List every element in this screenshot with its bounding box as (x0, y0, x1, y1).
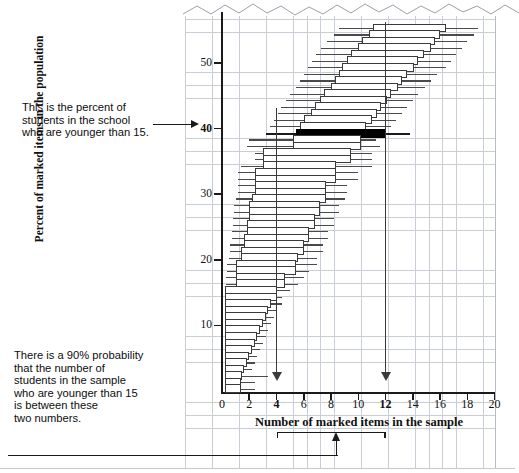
whisker-high (351, 159, 371, 160)
whisker-high (361, 139, 376, 140)
whisker-high (435, 41, 468, 42)
whisker-low (234, 212, 249, 213)
whisker-high (249, 356, 257, 357)
whisker-high (402, 80, 431, 81)
whisker-high (242, 376, 268, 377)
whisker-low (233, 218, 249, 219)
x-tick-label-2: 2 (246, 397, 252, 412)
x-tick-label-14: 14 (407, 397, 419, 412)
y-tick-50 (214, 62, 221, 64)
whisker-high (440, 34, 474, 35)
whisker-low (266, 133, 296, 134)
whisker-high (418, 61, 451, 62)
torn-paper-edge-icon (183, 0, 519, 22)
whisker-high (336, 172, 358, 173)
y-tick-label-20: 20 (196, 253, 212, 265)
reference-line-x12 (385, 22, 386, 372)
box (225, 384, 241, 393)
reference-arrow-x4-icon (272, 372, 282, 381)
x-tick-label-12: 12 (380, 397, 392, 412)
reference-line-x4 (276, 108, 277, 372)
whisker-high (304, 244, 323, 245)
whisker-high (326, 185, 348, 186)
whisker-low (227, 271, 235, 272)
annotation-top-leader-line (153, 124, 193, 125)
x-tick-label-10: 10 (352, 397, 364, 412)
whisker-high (366, 126, 391, 127)
x-axis-title: Number of marked items in the sample (228, 415, 490, 430)
whisker-high (296, 271, 310, 272)
x-tick-label-8: 8 (328, 397, 334, 412)
whisker-low (286, 100, 320, 101)
whisker-high (241, 382, 255, 383)
x-tick-label-20: 20 (489, 397, 501, 412)
whisker-high (252, 349, 260, 350)
annotation-population-percent: This is the percent of students in the s… (22, 101, 172, 139)
whisker-high (255, 343, 263, 344)
whisker-high (424, 54, 457, 55)
y-tick-label-30: 30 (196, 187, 212, 199)
whisker-low (308, 67, 342, 68)
whisker-low (227, 264, 235, 265)
whisker-high (414, 67, 445, 68)
whisker-high (309, 231, 328, 232)
y-tick-40 (214, 128, 221, 130)
whisker-high (257, 336, 265, 337)
annotation-bottom-leader-riser (336, 441, 337, 456)
whisker-high (387, 100, 413, 101)
whisker-high (398, 87, 425, 88)
whisker-high (315, 218, 334, 219)
whisker-high (391, 94, 418, 95)
annotation-bottom-arrow-icon (332, 432, 340, 441)
whisker-low (249, 139, 293, 140)
whisker-high (407, 74, 437, 75)
y-tick-10 (214, 325, 221, 327)
whisker-high (263, 323, 271, 324)
whisker-low (316, 54, 351, 55)
whisker-high (241, 389, 255, 390)
whisker-low (327, 41, 362, 42)
whisker-low (281, 107, 315, 108)
whisker-high (285, 284, 299, 285)
x-tick-label-6: 6 (301, 397, 307, 412)
y-tick-30 (214, 193, 221, 195)
y-axis-title: Percent of marked items in the populatio… (33, 24, 45, 254)
whisker-low (334, 34, 369, 35)
whisker-low (241, 166, 263, 167)
y-axis-line (221, 12, 223, 393)
y-tick-20 (214, 259, 221, 261)
whisker-low (238, 185, 254, 186)
whisker-high (304, 251, 323, 252)
whisker-low (238, 192, 254, 193)
whisker-low (300, 80, 335, 81)
whisker-high (285, 277, 304, 278)
whisker-high (296, 264, 318, 265)
whisker-high (315, 225, 334, 226)
whisker-low (296, 87, 331, 88)
whisker-high (247, 362, 255, 363)
whisker-high (351, 153, 371, 154)
whisker-low (232, 238, 244, 239)
whisker-low (236, 198, 252, 199)
annotation-bottom-leader-line (8, 455, 338, 456)
whisker-high (326, 198, 345, 199)
x-tick-label-0: 0 (219, 397, 225, 412)
whisker-high (320, 212, 339, 213)
whisker-high (266, 317, 274, 318)
whisker-high (336, 179, 358, 180)
whisker-low (274, 120, 304, 121)
whisker-low (238, 172, 254, 173)
whisker-high (377, 113, 402, 114)
annotation-top-arrow-icon (191, 120, 199, 128)
whisker-low (321, 48, 358, 49)
x-tick-label-16: 16 (434, 397, 446, 412)
x-tick-label-18: 18 (461, 397, 473, 412)
whisker-high (446, 28, 479, 29)
whisker-low (290, 94, 324, 95)
whisker-low (312, 61, 347, 62)
whisker-high (244, 369, 252, 370)
whisker-low (230, 251, 241, 252)
page-bottom-rule (0, 468, 515, 469)
whisker-high (431, 48, 462, 49)
